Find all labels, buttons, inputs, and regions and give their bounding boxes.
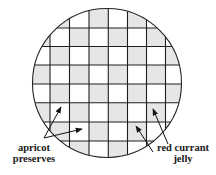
label-apricot-line2: preserves [6,153,62,164]
shaded-cell [30,28,50,47]
shaded-cell [128,47,147,66]
shaded-cell [89,47,108,66]
shaded-cell [70,65,90,84]
plain-cell [128,65,147,84]
shaded-cell [50,84,70,103]
shaded-cell [89,122,108,141]
shaded-cell [70,103,90,122]
plain-cell [70,47,90,66]
shaded-cell [50,47,70,66]
shaded-cell [108,65,127,84]
label-apricot-preserves: apricot preserves [6,142,62,164]
shaded-cell [50,122,70,141]
label-apricot-line1: apricot [6,142,62,153]
shaded-cell [70,141,90,160]
plain-cell [147,47,166,66]
shaded-cell [147,103,166,122]
shaded-cell [30,103,50,122]
plain-cell [30,7,50,28]
plain-cell [89,103,108,122]
plain-cell [108,84,127,103]
label-currant-line2: jelly [152,153,214,164]
plain-cell [108,122,127,141]
shaded-cell [108,28,127,47]
plain-cell [108,47,127,66]
shaded-cell [128,7,147,28]
label-currant-line1: red currant [152,142,214,153]
plain-cell [147,84,166,103]
plain-cell [70,84,90,103]
shaded-cell [147,28,166,47]
shaded-cell [89,84,108,103]
plain-cell [128,103,147,122]
plain-cell [128,28,147,47]
shaded-cell [128,84,147,103]
shaded-cell [147,65,166,84]
shaded-cell [166,7,185,28]
plain-cell [147,7,166,28]
plain-cell [50,103,70,122]
plain-cell [128,141,147,160]
plain-cell [166,28,185,47]
shaded-cell [108,103,127,122]
plain-cell [50,65,70,84]
plain-cell [89,65,108,84]
label-red-currant-jelly: red currant jelly [152,142,214,164]
plain-cell [166,103,185,122]
shaded-cell [166,47,185,66]
plain-cell [50,28,70,47]
plain-cell [89,28,108,47]
shaded-cell [70,28,90,47]
